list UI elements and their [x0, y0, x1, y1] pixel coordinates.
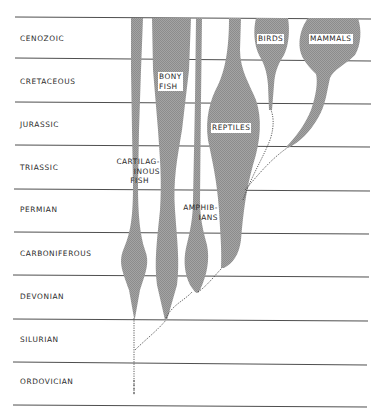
- period-label-carboniferous: CARBONIFEROUS: [20, 249, 92, 258]
- label-cartilaginous-line3: FISH: [110, 176, 149, 186]
- period-label-cretaceous: CRETACEOUS: [20, 77, 76, 86]
- reptiles-spindle: [207, 18, 260, 268]
- birds-spindle: [254, 18, 289, 110]
- period-label-permian: PERMIAN: [20, 205, 58, 214]
- label-amphibians-line1: AMPHIB-: [176, 203, 218, 213]
- label-reptiles: REPTILES: [211, 123, 251, 133]
- label-bony-fish-line1: BONY: [158, 72, 183, 82]
- label-bony-fish-line2: FISH: [158, 82, 183, 92]
- period-label-cenozoic: CENOZOIC: [20, 34, 64, 43]
- label-cartilaginous-fish: CARTILAG- INOUS FISH: [110, 157, 160, 186]
- label-amphibians: AMPHIB- IANS: [176, 203, 218, 222]
- label-amphibians-line2: IANS: [176, 213, 218, 223]
- label-cartilaginous-line2: INOUS: [110, 167, 160, 177]
- period-label-ordovician: ORDOVICIAN: [20, 377, 74, 386]
- period-label-jurassic: JURASSIC: [20, 120, 59, 129]
- label-birds: BIRDS: [257, 34, 284, 44]
- period-label-devonian: DEVONIAN: [20, 292, 64, 301]
- period-label-triassic: TRIASSIC: [20, 163, 58, 172]
- label-cartilaginous-line1: CARTILAG-: [110, 157, 160, 167]
- label-bony-fish: BONY FISH: [158, 72, 183, 91]
- period-label-silurian: SILURIAN: [20, 335, 59, 344]
- label-mammals: MAMMALS: [309, 34, 353, 44]
